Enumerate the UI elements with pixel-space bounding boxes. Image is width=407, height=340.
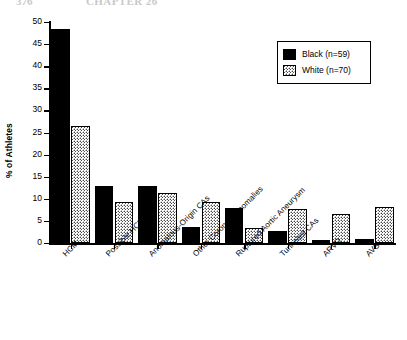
y-tick-mark: [44, 22, 49, 23]
y-tick-mark: [44, 155, 49, 156]
bar-chart-figure: % of Athletes 50454035302520151050 HCMPo…: [0, 0, 407, 340]
y-tick-label: 15: [33, 171, 42, 182]
y-tick-label: 10: [33, 193, 42, 204]
y-tick-label: 35: [33, 82, 42, 93]
legend-label-white: White (n=70): [302, 65, 351, 75]
bar-black-7: [355, 239, 374, 243]
solid-black-swatch-icon: [283, 49, 296, 60]
y-tick-mark: [44, 221, 49, 222]
y-tick-mark: [44, 110, 49, 111]
y-tick-mark: [44, 88, 49, 89]
y-tick-label: 20: [33, 149, 42, 160]
y-tick-mark: [44, 44, 49, 45]
legend-item-white: White (n=70): [283, 62, 365, 78]
y-axis-title: % of Athletes: [4, 164, 14, 178]
bar-black-6: [312, 240, 331, 243]
y-tick-mark: [44, 66, 49, 67]
y-tick-label: 45: [33, 38, 42, 49]
y-tick-label: 5: [37, 215, 42, 226]
legend-item-black: Black (n=59): [283, 46, 365, 62]
legend-label-black: Black (n=59): [302, 49, 350, 59]
bar-white-7: [375, 207, 394, 243]
bar-black-5: [268, 231, 287, 243]
bar-black-2: [138, 186, 157, 243]
y-tick-label: 0: [37, 237, 42, 248]
y-tick-label: 50: [33, 16, 42, 27]
chart-legend: Black (n=59) White (n=70): [277, 41, 371, 84]
y-tick-mark: [44, 133, 49, 134]
y-tick-mark: [44, 177, 49, 178]
stippled-white-swatch-icon: [283, 65, 296, 76]
y-tick-label: 30: [33, 104, 42, 115]
y-tick-mark: [44, 199, 49, 200]
bar-black-3: [182, 227, 201, 243]
bar-black-0: [51, 29, 70, 243]
y-tick-label: 40: [33, 60, 42, 71]
y-tick-mark: [44, 243, 49, 244]
y-tick-label: 25: [33, 127, 42, 138]
bar-black-1: [95, 186, 114, 243]
bar-white-0: [71, 126, 90, 243]
